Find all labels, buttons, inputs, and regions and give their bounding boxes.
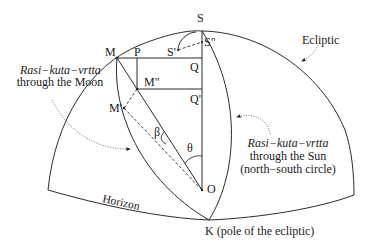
point-m xyxy=(116,57,119,60)
label-sun-circle-sub2: (north−south circle) xyxy=(230,163,346,176)
label-q: Q xyxy=(190,61,199,74)
horizon-label: Horizon xyxy=(102,192,142,212)
label-s: S xyxy=(197,12,204,25)
point-m2 xyxy=(136,88,139,91)
label-s-double-prime: S" xyxy=(204,36,216,49)
label-beta: β xyxy=(154,126,160,139)
dashed-m2-m1 xyxy=(124,89,137,108)
label-m-double-prime: M" xyxy=(144,76,160,89)
label-m: M xyxy=(105,46,116,59)
dashed-s1-s2 xyxy=(178,42,202,50)
label-o: O xyxy=(207,183,216,196)
point-o xyxy=(201,189,203,191)
point-m1 xyxy=(123,107,126,110)
theta-angle-arc xyxy=(185,156,202,163)
label-s-prime: S' xyxy=(167,46,176,59)
moon-rasi-kuta-vrtta xyxy=(116,58,209,220)
label-q-prime: Q' xyxy=(190,93,201,106)
label-p: P xyxy=(134,46,141,59)
label-moon-circle-sub: through the Moon xyxy=(14,76,106,89)
label-ecliptic: Ecliptic xyxy=(302,34,339,47)
ecliptic-label-leader xyxy=(302,45,318,61)
arc-s-s1 xyxy=(178,32,196,50)
point-s1 xyxy=(177,49,179,51)
label-theta: θ xyxy=(187,142,193,155)
point-s2 xyxy=(201,41,203,43)
sun-label-leader xyxy=(237,116,270,134)
label-m-prime: M' xyxy=(109,102,122,115)
label-k: K (pole of the ecliptic) xyxy=(205,225,314,238)
